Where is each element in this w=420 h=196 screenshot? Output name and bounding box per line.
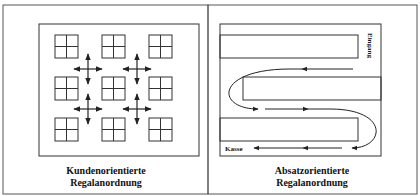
shelf-unit	[55, 77, 78, 100]
shelf-unit	[55, 35, 78, 58]
four-way-arrow-icon	[123, 54, 151, 84]
shelf-unit	[102, 35, 125, 58]
store-floor-left	[39, 24, 199, 156]
shelf-unit	[102, 118, 125, 141]
caption-right-line1: Absatzorientierte	[212, 165, 412, 177]
shelf-unit	[55, 118, 78, 141]
path-curve-right	[308, 109, 376, 148]
shelf-unit	[149, 35, 172, 58]
long-shelf	[220, 118, 358, 141]
caption-right: Absatzorientierte Regalanordnung	[212, 165, 412, 189]
customer-path	[229, 69, 376, 148]
long-shelf	[220, 35, 358, 58]
shelf-unit	[149, 77, 172, 100]
entrance-label: Eingang	[366, 33, 374, 58]
long-shelf	[243, 77, 381, 100]
caption-left-line1: Kundenorientierte	[6, 165, 206, 177]
shelf-unit	[149, 118, 172, 141]
four-way-arrow-icon	[123, 94, 151, 124]
long-shelves	[220, 35, 381, 141]
shelf-unit	[102, 77, 125, 100]
shelf-grid	[55, 35, 172, 141]
caption-right-line2: Regalanordnung	[212, 177, 412, 189]
path-curve-left	[229, 69, 302, 109]
caption-left: Kundenorientierte Regalanordnung	[6, 165, 206, 189]
store-floor-right	[220, 24, 381, 156]
caption-left-line2: Regalanordnung	[6, 177, 206, 189]
checkout-label: Kasse	[225, 145, 243, 153]
